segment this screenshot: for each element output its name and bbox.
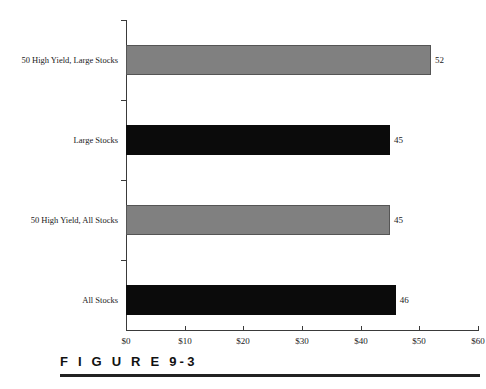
bar-all-stocks bbox=[126, 285, 396, 315]
value-tick-label-40: $40 bbox=[354, 336, 368, 346]
category-label-3: All Stocks bbox=[0, 296, 118, 305]
value-tick-label-0: $0 bbox=[122, 336, 131, 346]
category-label-2: 50 High Yield, All Stocks bbox=[0, 216, 118, 225]
value-tick-label-50: $50 bbox=[412, 336, 426, 346]
value-tick bbox=[185, 326, 186, 331]
category-tick bbox=[121, 20, 127, 21]
bar-large-stocks bbox=[126, 125, 390, 155]
value-tick bbox=[361, 326, 362, 331]
figure-divider bbox=[60, 374, 480, 377]
figure-caption-block: F I G U R E 9-3 bbox=[0, 352, 486, 389]
category-tick bbox=[121, 100, 127, 101]
value-tick-label-30: $30 bbox=[295, 336, 309, 346]
bar-50-high-yield-large-stocks bbox=[126, 45, 431, 75]
bar-chart: $0 $10 $20 $30 $40 $50 $60 52 50 High Yi… bbox=[0, 0, 486, 348]
category-label-0: 50 High Yield, Large Stocks bbox=[0, 56, 118, 65]
value-tick bbox=[302, 326, 303, 331]
category-tick bbox=[121, 260, 127, 261]
value-tick bbox=[126, 326, 127, 331]
value-tick-label-60: $60 bbox=[471, 336, 485, 346]
value-tick-label-10: $10 bbox=[178, 336, 192, 346]
value-tick bbox=[478, 326, 479, 331]
bar-50-high-yield-all-stocks bbox=[126, 205, 390, 235]
value-tick-label-20: $20 bbox=[236, 336, 250, 346]
figure-number: F I G U R E 9-3 bbox=[60, 354, 198, 369]
bar-value-1: 45 bbox=[394, 136, 403, 145]
value-tick bbox=[243, 326, 244, 331]
value-tick bbox=[419, 326, 420, 331]
bar-value-0: 52 bbox=[435, 56, 444, 65]
category-tick bbox=[121, 180, 127, 181]
bar-value-3: 46 bbox=[400, 296, 409, 305]
bar-value-2: 45 bbox=[394, 216, 403, 225]
category-label-1: Large Stocks bbox=[0, 136, 118, 145]
